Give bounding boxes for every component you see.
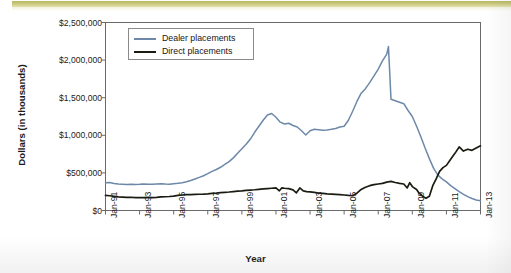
legend-swatch-direct <box>134 51 156 53</box>
x-axis-tick-label: Jan-11 <box>450 192 460 218</box>
x-axis-title: Year <box>0 253 511 264</box>
x-axis-tick-label: Jan-95 <box>177 191 187 217</box>
x-axis-tick-label: Jan-07 <box>382 191 392 217</box>
x-axis-tick-label: Jan-97 <box>211 191 221 217</box>
x-axis-tick-label: Jan-05 <box>348 191 358 217</box>
figure-page: Dollars (in thousands) $0$500,000$1,000,… <box>0 0 511 273</box>
legend-label-dealer: Dealer placements <box>162 32 235 45</box>
x-axis-tick-label: Jan-93 <box>143 191 153 217</box>
legend-label-direct: Direct placements <box>162 45 232 58</box>
x-axis-tick-label: Jan-09 <box>416 191 426 217</box>
legend-swatch-dealer <box>134 38 156 40</box>
x-axis-tick-label: Jan-99 <box>245 191 255 217</box>
x-axis-tick-labels: Jan-91Jan-93Jan-95Jan-97Jan-99Jan-01Jan-… <box>0 0 511 273</box>
x-axis-tick-label: Jan-13 <box>484 191 494 217</box>
x-axis-tick-label: Jan-03 <box>314 191 324 217</box>
line-chart: Dollars (in thousands) $0$500,000$1,000,… <box>0 0 511 273</box>
legend-item-direct-placements: Direct placements <box>134 45 248 58</box>
x-axis-tick-label: Jan-01 <box>279 191 289 217</box>
x-axis-tick-label: Jan-91 <box>109 191 119 217</box>
chart-legend: Dealer placements Direct placements <box>128 28 254 60</box>
legend-item-dealer-placements: Dealer placements <box>134 32 248 45</box>
